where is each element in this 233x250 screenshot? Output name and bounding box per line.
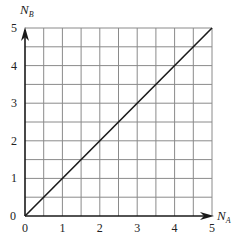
x-tick-label: 2 (97, 221, 103, 235)
y-tick-label: 2 (11, 134, 17, 148)
x-axis-label: NA (216, 208, 231, 225)
y-tick-label: 0 (10, 209, 16, 223)
x-tick-label: 5 (209, 221, 215, 235)
x-tick-label: 4 (172, 221, 178, 235)
x-tick-label: 0 (22, 221, 28, 235)
y-tick-label: 5 (11, 21, 17, 35)
y-tick-label: 3 (11, 96, 17, 110)
y-tick-label: 4 (11, 59, 17, 73)
chart: 012345012345 NB NA (0, 0, 233, 250)
y-axis-label: NB (19, 2, 34, 19)
x-tick-label: 3 (134, 221, 140, 235)
x-tick-label: 1 (59, 221, 65, 235)
y-tick-label: 1 (11, 171, 17, 185)
